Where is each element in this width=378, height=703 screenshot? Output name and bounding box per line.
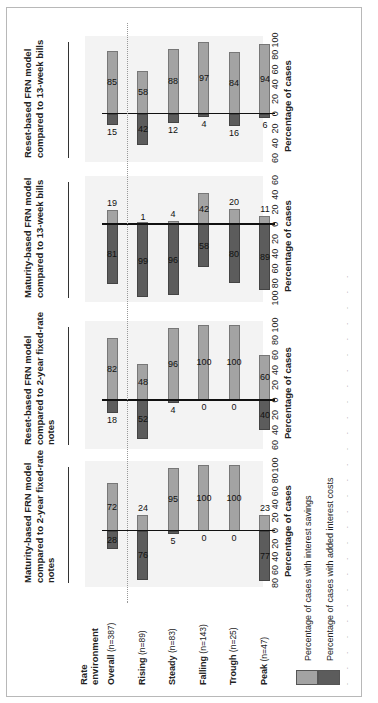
value-label-added-costs: 42 [137,124,147,134]
x-axis-tick-label: 40 [270,499,280,509]
value-label-added-costs: 89 [259,252,269,262]
x-axis-tick-label: 80 [270,473,280,483]
x-axis-tick-label: 20 [270,204,280,214]
panel-title-rule [68,42,69,158]
value-label-added-costs: 0 [231,533,236,543]
panel-title-line: Reset-based FRN model [22,312,34,445]
x-axis-tick-label: 100 [270,457,280,472]
value-label-added-costs: 76 [137,550,147,560]
row-label-name: Peak [259,664,269,685]
panel-title-line: Maturity-based FRN model [22,450,34,583]
x-axis-tick-label: 100 [270,32,280,47]
value-label-interest-savings: 84 [229,78,239,88]
x-axis-tick-label: 40 [270,365,280,375]
rate-environment-header-text: Rate environment [78,625,100,685]
panel-title-line: compared to 13-week bills [34,178,46,298]
panel-title-rule [68,182,69,298]
x-axis-tick-label: 60 [270,440,280,450]
value-label-added-costs: 99 [137,256,147,266]
x-axis-tick-label: 60 [270,565,280,575]
x-axis-tick-label: 100 [270,290,280,305]
x-axis-title: Percentage of cases [282,485,293,577]
bar-interest-savings [137,515,148,531]
row-label-rising: Rising (n=89) [137,630,148,685]
panel-title-rule [68,467,69,583]
value-label-interest-savings: 23 [259,503,269,513]
rate-environment-header: Rate environment [78,625,100,685]
x-axis-tick-label: 0 [270,528,280,533]
value-label-added-costs: 96 [168,255,178,265]
value-label-added-costs: 0 [201,533,206,543]
x-axis-tick-label: 20 [270,539,280,549]
value-label-interest-savings: 82 [107,364,117,374]
x-axis-tick-label: 60 [270,64,280,74]
value-label-added-costs: 4 [201,119,206,129]
x-axis-tick-label: 20 [270,512,280,522]
x-axis-tick-label: 80 [270,278,280,288]
value-label-interest-savings: 4 [170,209,175,219]
value-label-interest-savings: 88 [168,76,178,86]
value-label-added-costs: 40 [259,410,269,420]
value-label-interest-savings: 96 [168,359,178,369]
value-label-added-costs: 15 [107,127,117,137]
value-label-interest-savings: 100 [226,493,241,503]
x-axis-tick-label: 80 [270,50,280,60]
value-label-interest-savings: 42 [198,204,208,214]
value-label-added-costs: 16 [229,128,239,138]
value-label-added-costs: 4 [170,405,175,415]
footer-source-line: - - - - - - - - - - - - - - - - - - - - … [344,270,350,685]
x-axis-tick-label: 20 [270,123,280,133]
legend-label: Percentage of cases with interest saving… [303,495,313,661]
value-label-interest-savings: 58 [137,87,147,97]
value-label-interest-savings: 20 [229,198,239,208]
row-label-name: Rising [137,657,147,685]
value-label-added-costs: 81 [107,249,117,259]
row-label-name: Falling [198,656,208,685]
value-label-interest-savings: 11 [260,204,269,214]
value-label-interest-savings: 100 [196,493,211,503]
value-label-added-costs: 58 [198,241,208,251]
row-label-count: (n=387) [106,623,116,655]
value-label-added-costs: 80 [229,249,239,259]
row-label-count: (n=47) [259,637,269,664]
legend-swatch-added-costs [318,670,340,685]
x-axis-tick-label: 40 [270,79,280,89]
x-axis-tick-label: 20 [270,94,280,104]
row-label-overall: Overall (n=387) [106,623,117,685]
value-label-added-costs: 6 [262,120,267,130]
panel-title-line: compared to 2-year fixed-rate [34,312,46,445]
panel-title-line: compared to 2-year fixed-rate [34,450,46,583]
x-axis-tick-label: 60 [270,153,280,163]
x-axis-tick-label: 80 [270,335,280,345]
x-axis-tick-label: 0 [270,222,280,227]
value-label-added-costs: 28 [107,535,117,545]
x-axis-tick-label: 40 [270,190,280,200]
x-axis-tick-label: 40 [270,425,280,435]
x-axis-tick-label: 40 [270,249,280,259]
row-label-falling: Falling (n=143) [198,624,209,685]
value-label-added-costs: 0 [201,402,206,412]
panel-title-rule [68,327,69,445]
x-axis-tick-label: 20 [270,234,280,244]
panel-title-4: Reset-based FRN modelcompared to 13-week… [22,40,45,158]
value-label-interest-savings: 100 [226,358,241,368]
row-label-count: (n=83) [167,628,177,655]
x-axis-tick-label: 60 [270,486,280,496]
x-axis-tick-label: 60 [270,175,280,185]
row-label-steady: Steady (n=83) [167,628,178,685]
value-label-interest-savings: 1 [140,212,145,222]
row-label-count: (n=25) [228,627,238,654]
row-label-peak: Peak (n=47) [259,637,270,685]
legend-swatch-interest-savings [296,670,318,685]
value-label-added-costs: 77 [259,551,269,561]
value-label-interest-savings: 94 [259,74,269,84]
value-label-interest-savings: 48 [137,377,147,387]
bar-added-costs [107,400,118,414]
x-axis-tick-label: 20 [270,380,280,390]
value-label-interest-savings: 19 [107,198,117,208]
row-label-name: Steady [167,655,177,685]
panel-title-line: Reset-based FRN model [22,40,34,158]
value-label-added-costs: 12 [168,125,178,135]
x-axis-tick-label: 60 [270,263,280,273]
x-axis-tick-label: 100 [270,317,280,332]
